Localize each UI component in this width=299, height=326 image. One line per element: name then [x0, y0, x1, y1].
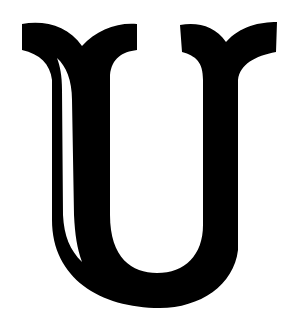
letter-u-icon [0, 0, 299, 326]
letter-u-glyph-canvas: U [0, 0, 299, 326]
